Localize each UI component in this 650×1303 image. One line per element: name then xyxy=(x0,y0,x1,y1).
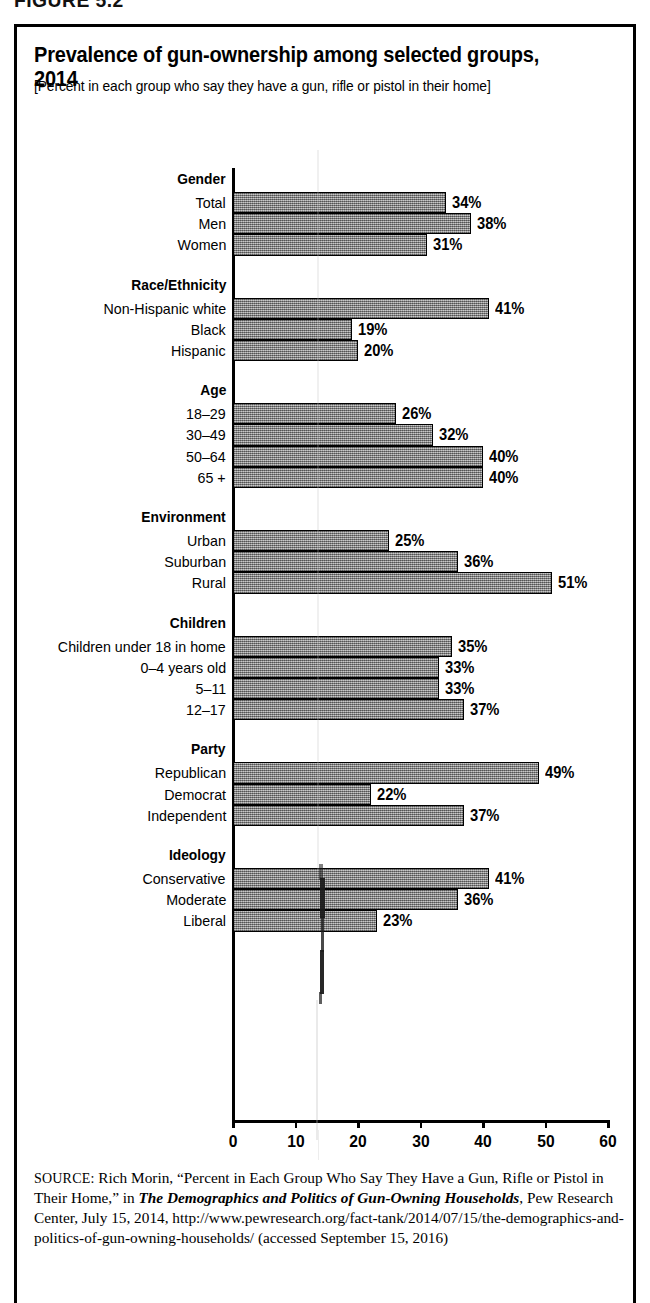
bar xyxy=(233,192,446,213)
category-label: Suburban xyxy=(164,553,226,570)
x-axis-tick-label: 60 xyxy=(590,1132,627,1152)
bar xyxy=(233,889,458,910)
x-axis-tick-label: 20 xyxy=(340,1132,377,1152)
scan-artifact-line xyxy=(318,1130,319,1160)
bar-value-label: 20% xyxy=(364,342,393,360)
x-axis-tick-label: 30 xyxy=(402,1132,439,1152)
category-label: 50–64 xyxy=(186,448,226,465)
bar-value-label: 19% xyxy=(358,321,387,339)
bar xyxy=(233,467,483,488)
x-axis-tick xyxy=(607,1120,610,1128)
category-label: Black xyxy=(191,321,226,338)
x-axis-tick-label: 0 xyxy=(215,1132,252,1152)
category-label: 30–49 xyxy=(186,426,226,443)
bar xyxy=(233,805,464,826)
bar-value-label: 40% xyxy=(489,448,518,466)
category-label: 65 + xyxy=(198,469,226,486)
bar xyxy=(233,762,539,783)
bar-value-label: 34% xyxy=(452,194,481,212)
bar xyxy=(233,403,396,424)
bar-value-label: 22% xyxy=(377,786,406,804)
x-axis-tick xyxy=(295,1120,298,1128)
bar xyxy=(233,868,489,889)
x-axis-tick xyxy=(420,1120,423,1128)
group-header-race-ethnicity: Race/Ethnicity xyxy=(131,276,226,293)
group-header-gender: Gender xyxy=(178,170,226,187)
group-header-children: Children xyxy=(170,614,226,631)
bar xyxy=(233,678,439,699)
category-label: 0–4 years old xyxy=(140,659,226,676)
bar xyxy=(233,636,452,657)
category-label: 18–29 xyxy=(186,405,226,422)
scan-artifact-mark xyxy=(321,916,324,952)
bar-value-label: 36% xyxy=(464,553,493,571)
group-header-environment: Environment xyxy=(142,508,226,525)
bar-value-label: 26% xyxy=(402,405,431,423)
bar xyxy=(233,530,389,551)
bar-value-label: 31% xyxy=(433,236,462,254)
scan-artifact-mark xyxy=(319,992,322,1004)
category-label: Children under 18 in home xyxy=(58,638,226,655)
bar xyxy=(233,910,377,931)
x-axis-tick-label: 50 xyxy=(527,1132,564,1152)
bar-value-label: 23% xyxy=(383,912,412,930)
bar-value-label: 49% xyxy=(545,764,574,782)
category-label: Liberal xyxy=(183,912,226,929)
category-label: Moderate xyxy=(166,891,226,908)
bar-chart-plot: GenderTotal34%Men38%Women31%Race/Ethnici… xyxy=(0,0,650,1303)
category-label: 12–17 xyxy=(186,701,226,718)
x-axis-tick xyxy=(545,1120,548,1128)
x-axis-tick-label: 10 xyxy=(277,1132,314,1152)
bar xyxy=(233,234,427,255)
category-label: Conservative xyxy=(143,870,226,887)
bar-value-label: 33% xyxy=(445,680,474,698)
group-header-ideology: Ideology xyxy=(169,846,226,863)
source-title-italic: The Demographics and Politics of Gun-Own… xyxy=(139,1189,520,1206)
bar xyxy=(233,298,489,319)
bar-value-label: 35% xyxy=(458,638,487,656)
bar-value-label: 25% xyxy=(395,532,424,550)
bar-value-label: 36% xyxy=(464,891,493,909)
scan-artifact-mark xyxy=(320,950,324,994)
bar xyxy=(233,424,433,445)
x-axis-tick xyxy=(357,1120,360,1128)
category-label: 5–11 xyxy=(195,680,226,697)
bar xyxy=(233,340,358,361)
category-label: Rural xyxy=(192,574,226,591)
category-label: Women xyxy=(177,236,226,253)
scan-artifact-mark xyxy=(320,878,325,918)
category-label: Republican xyxy=(155,764,226,781)
bar xyxy=(233,319,352,340)
bar xyxy=(233,784,371,805)
x-axis-tick xyxy=(232,1120,235,1128)
category-label: Hispanic xyxy=(171,342,226,359)
source-prefix: SOURCE: xyxy=(34,1171,95,1186)
bar-value-label: 37% xyxy=(470,807,499,825)
category-label: Democrat xyxy=(164,786,226,803)
source-note: SOURCE: Rich Morin, “Percent in Each Gro… xyxy=(34,1168,626,1248)
group-header-party: Party xyxy=(191,740,226,757)
category-label: Non-Hispanic white xyxy=(103,300,226,317)
bar-value-label: 32% xyxy=(439,426,468,444)
category-label: Urban xyxy=(187,532,226,549)
bar-value-label: 40% xyxy=(489,469,518,487)
x-axis-tick xyxy=(482,1120,485,1128)
bar xyxy=(233,572,552,593)
bar-value-label: 41% xyxy=(495,870,524,888)
bar xyxy=(233,551,458,572)
bar xyxy=(233,446,483,467)
category-label: Independent xyxy=(147,807,226,824)
group-header-age: Age xyxy=(200,381,226,398)
bar-value-label: 33% xyxy=(445,659,474,677)
bar xyxy=(233,699,464,720)
scan-artifact-line xyxy=(316,1000,318,1140)
bar-value-label: 41% xyxy=(495,300,524,318)
scan-artifact-line xyxy=(317,150,319,870)
bar-value-label: 37% xyxy=(470,701,499,719)
x-axis-tick-label: 40 xyxy=(465,1132,502,1152)
bar xyxy=(233,657,439,678)
category-label: Total xyxy=(196,194,226,211)
bar-value-label: 51% xyxy=(558,574,587,592)
bar xyxy=(233,213,471,234)
bar-value-label: 38% xyxy=(477,215,506,233)
